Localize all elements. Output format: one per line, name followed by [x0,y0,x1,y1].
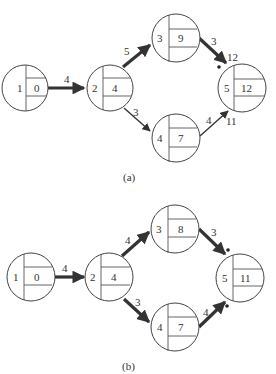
node-2: 2 4 [85,253,133,301]
node-1: 1 0 [7,253,55,301]
annotation-12: 12 [227,51,238,63]
node-1: 1 0 [2,65,48,111]
edge-weight-1-2: 4 [64,73,70,85]
node-4: 4 7 [151,303,199,351]
edge-4-5 [200,111,228,136]
caption-b: (b) [122,360,135,373]
edge-weight-4-5: 4 [203,306,209,318]
node-3: 3 8 [151,205,199,253]
diagram-b: 4 4 3 3 4 1 0 2 4 [7,205,264,373]
node-id: 5 [222,272,228,284]
node-id: 3 [156,223,162,235]
edge-weight-2-3: 5 [124,45,130,57]
node-value: 9 [178,32,184,44]
node-value: 7 [178,132,184,144]
node-5: 5 11 [216,254,264,302]
edge-weight-4-5: 4 [206,114,212,126]
diagram-a: 4 5 3 3 4 12 11 1 0 2 4 [2,14,266,184]
node-value: 4 [111,271,117,283]
network-diagrams: 4 5 3 3 4 12 11 1 0 2 4 [0,0,276,374]
critical-dot [226,248,230,252]
node-5: 5 12 [218,64,266,112]
node-id: 4 [157,132,163,144]
edge-weight-1-2: 4 [62,262,68,274]
node-value: 8 [178,223,184,235]
node-4: 4 7 [152,114,200,162]
node-id: 2 [90,271,96,283]
node-value: 0 [34,82,40,94]
caption-a: (a) [123,171,136,184]
node-id: 2 [92,82,98,94]
critical-dot [225,304,229,308]
node-value: 0 [34,271,40,283]
node-value: 4 [112,82,118,94]
node-id: 3 [157,32,163,44]
edge-weight-3-5: 3 [211,35,217,47]
node-id: 1 [17,82,23,94]
edge-weight-2-4: 3 [135,296,141,308]
node-value: 12 [241,82,252,94]
node-2: 2 4 [87,65,133,111]
node-id: 5 [224,82,230,94]
edge-weight-2-3: 4 [125,234,131,246]
edge-weight-3-5: 3 [211,226,217,238]
edge-weight-2-4: 3 [133,106,139,118]
node-value: 7 [178,321,184,333]
annotation-11: 11 [226,115,237,127]
node-value: 11 [240,272,251,284]
node-id: 4 [157,321,163,333]
node-3: 3 9 [152,14,200,62]
critical-dot [217,65,221,69]
node-id: 1 [13,271,19,283]
